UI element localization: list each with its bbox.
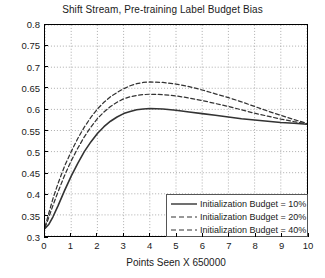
x-tick-label: 10 bbox=[303, 240, 314, 251]
x-tick-mark bbox=[255, 233, 256, 237]
legend-item-label: Initialization Budget = 40% bbox=[200, 225, 306, 235]
x-tick-label: 2 bbox=[94, 240, 99, 251]
x-tick-label: 9 bbox=[279, 240, 284, 251]
y-tick-mark bbox=[44, 66, 48, 67]
x-tick-mark bbox=[308, 233, 309, 237]
chart-title: Shift Stream, Pre-training Label Budget … bbox=[0, 4, 325, 15]
y-tick-label: 0.65 bbox=[22, 82, 41, 93]
y-axis-tick-labels: 0.30.350.40.450.50.550.60.650.70.750.8 bbox=[0, 0, 40, 278]
x-tick-mark bbox=[202, 233, 203, 237]
x-tick-label: 0 bbox=[41, 240, 46, 251]
y-tick-mark bbox=[44, 87, 48, 88]
x-tick-mark bbox=[44, 233, 45, 237]
legend-line-sample-dashed bbox=[170, 225, 198, 235]
x-tick-label: 5 bbox=[173, 240, 178, 251]
x-tick-label: 8 bbox=[253, 240, 258, 251]
legend-line-sample-dashed bbox=[170, 212, 198, 222]
legend-item-label: Initialization Budget = 20% bbox=[200, 212, 306, 222]
x-tick-mark bbox=[228, 233, 229, 237]
y-tick-label: 0.8 bbox=[27, 19, 40, 30]
chart-figure: Shift Stream, Pre-training Label Budget … bbox=[0, 0, 325, 278]
x-axis-title: Points Seen X 650000 bbox=[44, 257, 308, 268]
legend-item-label: Initialization Budget = 10% bbox=[200, 199, 306, 209]
x-tick-mark bbox=[96, 233, 97, 237]
legend-item: Initialization Budget = 40% bbox=[170, 223, 304, 236]
x-tick-mark bbox=[123, 233, 124, 237]
x-tick-label: 1 bbox=[68, 240, 73, 251]
legend-item: Initialization Budget = 10% bbox=[170, 197, 304, 210]
x-tick-mark bbox=[281, 233, 282, 237]
y-tick-label: 0.4 bbox=[27, 189, 40, 200]
legend-line-sample-solid bbox=[170, 199, 198, 209]
x-tick-label: 7 bbox=[226, 240, 231, 251]
legend: Initialization Budget = 10% Initializati… bbox=[166, 194, 308, 237]
y-tick-mark bbox=[44, 215, 48, 216]
legend-item: Initialization Budget = 20% bbox=[170, 210, 304, 223]
y-tick-mark bbox=[44, 173, 48, 174]
y-tick-mark bbox=[44, 24, 48, 25]
x-tick-mark bbox=[70, 233, 71, 237]
x-tick-mark bbox=[176, 233, 177, 237]
x-tick-mark bbox=[149, 233, 150, 237]
y-tick-mark bbox=[44, 45, 48, 46]
y-tick-label: 0.7 bbox=[27, 61, 40, 72]
y-tick-label: 0.35 bbox=[22, 210, 41, 221]
y-tick-label: 0.45 bbox=[22, 168, 41, 179]
y-tick-label: 0.55 bbox=[22, 125, 41, 136]
x-tick-label: 6 bbox=[200, 240, 205, 251]
y-tick-mark bbox=[44, 237, 48, 238]
y-tick-label: 0.5 bbox=[27, 146, 40, 157]
x-tick-label: 4 bbox=[147, 240, 152, 251]
y-tick-label: 0.6 bbox=[27, 104, 40, 115]
y-tick-mark bbox=[44, 130, 48, 131]
y-tick-label: 0.75 bbox=[22, 40, 41, 51]
x-tick-label: 3 bbox=[121, 240, 126, 251]
y-tick-mark bbox=[44, 151, 48, 152]
x-axis-tick-labels: 012345678910 bbox=[0, 240, 325, 254]
y-tick-mark bbox=[44, 109, 48, 110]
y-tick-mark bbox=[44, 194, 48, 195]
